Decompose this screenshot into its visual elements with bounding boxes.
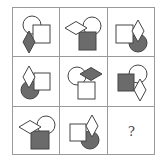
- shape-group-icon: [13, 8, 60, 57]
- square-icon: [116, 25, 133, 43]
- square-icon: [31, 131, 49, 149]
- square-icon: [33, 25, 50, 43]
- square-icon: [79, 32, 96, 50]
- shape-group-icon: [108, 57, 155, 107]
- cell-r1c1: [13, 8, 60, 57]
- cell-r3c3-answer[interactable]: ?: [108, 107, 155, 155]
- shape-group-icon: [13, 57, 60, 107]
- cell-r2c1: [13, 57, 60, 107]
- shape-group-icon: [60, 57, 108, 107]
- square-icon: [118, 74, 134, 91]
- cell-r2c2: [60, 57, 108, 107]
- cell-r1c3: [108, 8, 155, 57]
- cell-r2c3: [108, 57, 155, 107]
- puzzle-grid: ?: [12, 7, 155, 155]
- square-icon: [78, 82, 95, 99]
- cell-r3c2: [60, 107, 108, 155]
- shape-group-icon: [108, 8, 155, 57]
- shape-group-icon: [60, 107, 108, 155]
- square-icon: [70, 124, 86, 141]
- shape-group-icon: [60, 8, 108, 57]
- question-mark: ?: [108, 107, 155, 155]
- square-icon: [34, 73, 50, 90]
- cell-r3c1: [13, 107, 60, 155]
- shape-group-icon: [13, 107, 60, 155]
- cell-r1c2: [60, 8, 108, 57]
